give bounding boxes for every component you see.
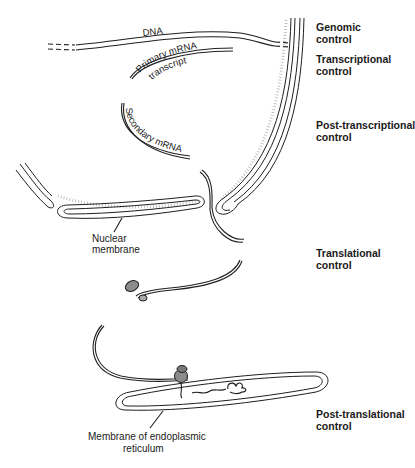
nascent-polypeptide bbox=[181, 383, 182, 398]
control-label-transcriptional: Transcriptional control bbox=[316, 53, 391, 77]
gene-expression-control-diagram: DNA Primary mRNA transcript Secondary mR… bbox=[0, 0, 415, 468]
control-label-genomic: Genomic control bbox=[316, 21, 361, 45]
dna-label: DNA bbox=[142, 25, 164, 38]
ribosome-on-er bbox=[93, 325, 188, 398]
nuclear-membrane-pointer bbox=[114, 218, 122, 232]
control-label-post-transcriptional: Post-transcriptional control bbox=[316, 119, 415, 143]
control-label-translational: Translational control bbox=[316, 247, 381, 271]
small-ribosome-subunit bbox=[139, 295, 147, 301]
mrna-with-ribosome-subunits bbox=[124, 260, 242, 301]
er-cisterna bbox=[116, 372, 328, 410]
polypeptide-chain bbox=[192, 389, 226, 393]
er-membrane-pointer bbox=[150, 411, 163, 428]
nuclear-membrane-label: Nuclear membrane bbox=[92, 233, 140, 255]
nuclear-envelope bbox=[16, 18, 304, 218]
large-ribosome-subunit bbox=[124, 279, 141, 294]
ribosome-small bbox=[177, 366, 187, 373]
control-label-post-translational: Post-translational control bbox=[316, 408, 405, 432]
folded-protein bbox=[228, 383, 246, 393]
er-membrane-label-line2: reticulum bbox=[123, 443, 164, 454]
er-membrane-label-line1: Membrane of endoplasmic bbox=[88, 431, 206, 442]
